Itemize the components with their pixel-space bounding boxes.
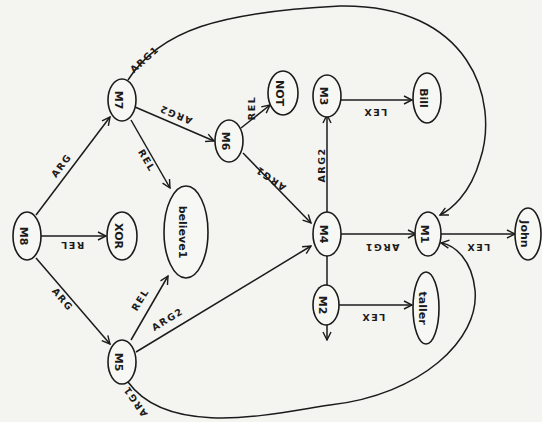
- node-label: Bill: [417, 88, 430, 108]
- edge-label-rel: REL: [246, 96, 257, 120]
- node-label: M6: [219, 132, 232, 151]
- edge-m8-m7: ARG: [36, 117, 110, 215]
- edge-label-arg2: ARG2: [157, 103, 194, 127]
- edge-label-rel: REL: [129, 286, 151, 312]
- edge-m1-john: LEX: [441, 234, 515, 253]
- node-m1: M1: [415, 212, 441, 256]
- edge-label-arg1: ARG1: [253, 164, 288, 193]
- edge-m4-m1: ARG1: [341, 234, 416, 253]
- node-xor: XOR: [107, 212, 137, 260]
- node-label: M5: [112, 353, 125, 372]
- node-m3: M3: [313, 75, 341, 117]
- edge-m6-m4: ARG1: [243, 153, 311, 223]
- node-label: M7: [112, 91, 125, 110]
- node-m6: M6: [215, 120, 243, 162]
- edge-m5-m4: ARG2: [136, 246, 311, 352]
- edge-label-lex: LEX: [363, 107, 387, 118]
- node-label: M4: [317, 225, 330, 244]
- edge-m8-xor: REL: [41, 236, 106, 251]
- node-taller: taller: [413, 272, 439, 344]
- node-m2: M2: [313, 285, 339, 325]
- node-label: M3: [317, 87, 330, 106]
- node-m8: M8: [13, 212, 41, 260]
- node-label: M2: [316, 296, 329, 315]
- edge-m6-not: REL: [241, 96, 270, 128]
- node-john: John: [515, 208, 541, 260]
- node-label: John: [518, 219, 531, 247]
- node-label: taller: [416, 291, 429, 325]
- edge-m5-believe1: REL: [129, 276, 168, 340]
- semantic-network-diagram: ARG REL ARG REL ARG2 ARG1 REL ARG2 ARG1: [0, 0, 542, 422]
- edge-m3-bill: LEX: [340, 100, 412, 118]
- node-label: M1: [418, 225, 431, 244]
- edge-label-arg: ARG: [49, 151, 74, 179]
- edge-m8-m5: ARG: [36, 258, 110, 344]
- edge-label-arg1: ARG1: [121, 384, 150, 419]
- node-label: M8: [17, 227, 30, 246]
- node-m7: M7: [108, 79, 136, 121]
- node-m4: M4: [313, 212, 341, 256]
- node-label: XOR: [112, 223, 125, 249]
- edge-label-arg1: ARG1: [128, 43, 161, 75]
- edge-label-arg1: ARG1: [364, 242, 399, 253]
- node-m5: M5: [108, 340, 136, 384]
- node-bill: Bill: [413, 73, 441, 123]
- node-not: NOT: [268, 71, 298, 115]
- node-label: believe1: [176, 206, 189, 259]
- edge-m7-m6: ARG2: [135, 103, 214, 141]
- node-believe1: believe1: [164, 186, 208, 278]
- node-label: NOT: [273, 80, 286, 107]
- edge-label-lex: LEX: [361, 312, 385, 323]
- edge-label-arg2: ARG2: [316, 147, 327, 182]
- edge-label-arg2: ARG2: [150, 305, 186, 332]
- edge-label-rel: REL: [60, 240, 84, 251]
- edge-m2-taller: LEX: [339, 305, 412, 323]
- edge-m7-believe1: REL: [131, 120, 170, 188]
- edge-label-lex: LEX: [466, 242, 490, 253]
- edge-m4-m3: ARG2: [316, 115, 328, 213]
